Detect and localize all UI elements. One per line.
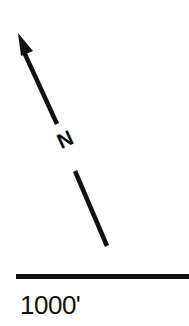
scale-bar-label: 1000' xyxy=(20,290,80,321)
north-arrow-icon: N xyxy=(18,33,107,246)
map-legend: N xyxy=(0,0,189,326)
north-label: N xyxy=(53,126,76,153)
scale-bar xyxy=(16,274,189,279)
